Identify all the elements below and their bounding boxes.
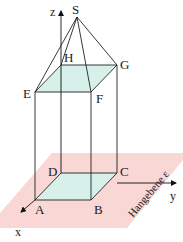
label-x-axis: x [15,225,21,239]
label-B: B [94,202,103,217]
label-C: C [120,164,129,179]
label-G: G [120,57,129,72]
label-y-axis: y [170,189,176,203]
label-D: D [48,164,57,179]
label-A: A [35,202,45,217]
geometry-diagram: S H G E F D C A B z y x Hangebene ε [0,0,183,242]
top-face [35,65,117,92]
label-z-axis: z [50,5,55,19]
label-H: H [64,50,73,65]
edge-SG [77,17,117,65]
label-S: S [72,2,79,17]
label-F: F [96,91,103,106]
label-E: E [23,86,31,101]
